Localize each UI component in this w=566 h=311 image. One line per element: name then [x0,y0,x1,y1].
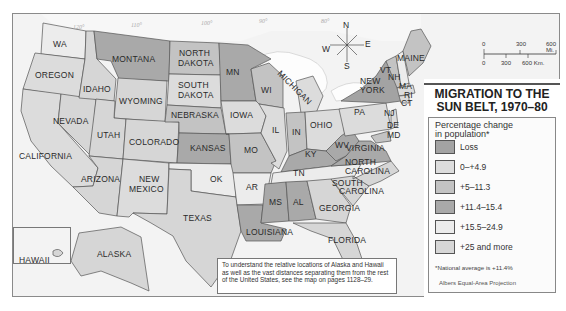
legend-subtitle: Percentage change in population* [435,121,553,139]
svg-text:MONTANA: MONTANA [112,54,155,64]
svg-text:FLORIDA: FLORIDA [328,235,366,245]
svg-text:MN: MN [226,67,240,77]
legend-panel: MIGRATION TO THE SUN BELT, 1970–80 Perce… [424,79,560,297]
legend-swatch [435,220,455,234]
legend-swatch [435,240,455,254]
svg-text:NEVADA: NEVADA [53,116,89,126]
svg-text:ARIZONA: ARIZONA [81,174,120,184]
svg-text:NORTH: NORTH [179,48,210,58]
svg-text:IOWA: IOWA [230,110,253,120]
hawaii-inset [13,227,71,264]
legend: Percentage change in population* Loss 0–… [428,117,556,293]
national-average-note: *National average is +11.4% [435,264,553,271]
svg-text:W: W [322,44,330,54]
svg-text:MS: MS [269,197,282,207]
svg-text:MAINE: MAINE [397,53,425,63]
legend-item: 0–+4.9 [435,160,553,176]
legend-item: +11.4–15.4 [435,200,553,216]
legend-item: Loss [435,140,553,156]
svg-text:PA: PA [354,107,365,117]
svg-text:WA: WA [53,39,67,49]
svg-text:CAROLINA: CAROLINA [345,166,390,176]
svg-text:WV: WV [335,140,349,150]
svg-text:DE: DE [387,120,399,130]
svg-text:100°: 100° [201,20,213,26]
svg-text:WYOMING: WYOMING [119,96,163,106]
svg-text:VIRGINIA: VIRGINIA [346,143,385,153]
svg-text:NEBRASKA: NEBRASKA [171,110,219,120]
svg-text:MD: MD [387,130,401,140]
svg-text:80°: 80° [321,18,330,24]
svg-text:MO: MO [244,145,258,155]
svg-text:OHIO: OHIO [310,120,333,130]
svg-text:CT: CT [401,98,413,108]
svg-text:TN: TN [293,168,305,178]
svg-text:CAROLINA: CAROLINA [339,186,384,196]
legend-item: +5–11.3 [435,180,553,196]
legend-item: +15.5–24.9 [435,220,553,236]
svg-text:IL: IL [272,125,280,135]
legend-swatch [435,200,455,214]
svg-text:MEXICO: MEXICO [129,184,164,194]
map-title: MIGRATION TO THE SUN BELT, 1970–80 [424,83,560,114]
svg-text:WI: WI [261,85,272,95]
svg-text:CALIFORNIA: CALIFORNIA [19,151,72,161]
svg-text:IDAHO: IDAHO [83,84,111,94]
svg-text:ALASKA: ALASKA [97,249,131,259]
svg-text:SOUTH: SOUTH [178,80,209,90]
svg-text:OREGON: OREGON [35,70,74,80]
svg-text:KANSAS: KANSAS [190,143,226,153]
svg-text:UTAH: UTAH [97,130,120,140]
legend-swatch [435,160,455,174]
svg-text:DAKOTA: DAKOTA [178,90,214,100]
svg-text:N: N [343,20,349,30]
svg-text:120°: 120° [73,24,85,30]
legend-item: +25 and more [435,240,553,256]
svg-text:DAKOTA: DAKOTA [178,58,214,68]
svg-text:GEORGIA: GEORGIA [319,203,360,213]
projection-label: Albers Equal-Area Projection [439,280,557,286]
svg-text:90°: 90° [259,18,268,24]
svg-text:S: S [344,61,350,71]
svg-text:OK: OK [210,174,223,184]
svg-text:LOUISIANA: LOUISIANA [246,227,293,237]
svg-text:110°: 110° [131,22,143,28]
svg-text:AL: AL [293,197,304,207]
svg-text:IN: IN [292,127,301,137]
scale-bar: 0 300 600 Mi. 0 300 600 Km. [482,40,562,70]
legend-swatch [435,140,455,154]
svg-text:AR: AR [246,182,258,192]
svg-text:TEXAS: TEXAS [183,213,212,223]
svg-text:KY: KY [305,149,317,159]
svg-text:NEW: NEW [139,174,159,184]
alaska-hawaii-note: To understand the relative locations of … [217,258,397,294]
svg-text:YORK: YORK [360,85,385,95]
legend-swatch [435,180,455,194]
svg-text:E: E [365,39,371,49]
svg-text:COLORADO: COLORADO [129,137,179,147]
svg-text:NJ: NJ [384,108,395,118]
